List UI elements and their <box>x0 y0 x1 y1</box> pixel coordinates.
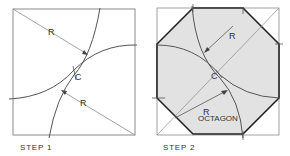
step1-caption: STEP 1 <box>20 143 52 152</box>
step1-label-r-top: R <box>48 27 55 37</box>
step1-label-r-bottom: R <box>80 98 87 108</box>
step1-radius-line-bottom <box>62 91 135 135</box>
step2-label-octagon: OCTAGON <box>198 114 238 123</box>
step2-label-c: C <box>211 71 218 81</box>
octagon-construction-diagram: R R C STEP 1 R R C OCTAGON STEP 2 <box>0 0 290 156</box>
step2-figure: R R C OCTAGON STEP 2 <box>152 4 283 152</box>
step2-caption: STEP 2 <box>163 143 195 152</box>
step1-figure: R R C STEP 1 <box>9 8 137 152</box>
step1-label-c: C <box>75 72 82 82</box>
step2-label-r-top: R <box>229 31 236 41</box>
step1-arc-horizontal <box>9 45 137 99</box>
